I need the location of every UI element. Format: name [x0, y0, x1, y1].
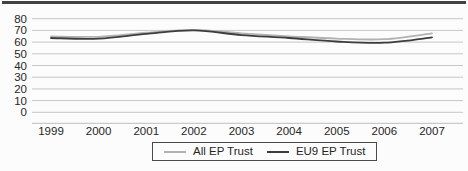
- y-tick-label: 80: [14, 13, 27, 25]
- y-tick-label: 40: [14, 60, 27, 72]
- figure-page: 0102030405060708019992000200120022003200…: [0, 0, 468, 171]
- y-tick-label: 50: [14, 48, 27, 60]
- all-ep-trust-line-swatch: [164, 151, 186, 153]
- eu9-ep-trust-line-swatch: [267, 151, 289, 153]
- gridlines: [32, 19, 463, 113]
- x-tick-label: 2004: [276, 125, 302, 137]
- chart-canvas: 0102030405060708019992000200120022003200…: [0, 0, 468, 141]
- ep-trust-line-chart: 0102030405060708019992000200120022003200…: [0, 0, 468, 141]
- y-tick-label: 10: [14, 95, 27, 107]
- x-tick-label: 2003: [229, 125, 255, 137]
- x-tick-label: 2000: [86, 125, 112, 137]
- x-axis-year-labels: 199920002001200220032004200520062007: [38, 125, 445, 137]
- legend-label-eu9-ep-trust: EU9 EP Trust: [296, 146, 365, 158]
- x-tick-label: 2006: [372, 125, 398, 137]
- x-tick-label: 1999: [38, 125, 64, 137]
- chart-legend: All EP Trust EU9 EP Trust: [152, 142, 377, 161]
- x-tick-label: 2002: [181, 125, 207, 137]
- legend-label-all-ep-trust: All EP Trust: [193, 146, 253, 158]
- y-tick-label: 30: [14, 71, 27, 83]
- legend-item-eu9-ep-trust: EU9 EP Trust: [267, 146, 365, 158]
- y-tick-label: 0: [21, 106, 27, 118]
- y-tick-label: 60: [14, 36, 27, 48]
- y-tick-label: 20: [14, 83, 27, 95]
- x-tick-label: 2007: [419, 125, 445, 137]
- x-tick-label: 2001: [133, 125, 159, 137]
- y-axis-tick-labels: 01020304050607080: [14, 13, 27, 119]
- legend-item-all-ep-trust: All EP Trust: [164, 146, 253, 158]
- x-tick-label: 2005: [324, 125, 350, 137]
- y-tick-label: 70: [14, 24, 27, 36]
